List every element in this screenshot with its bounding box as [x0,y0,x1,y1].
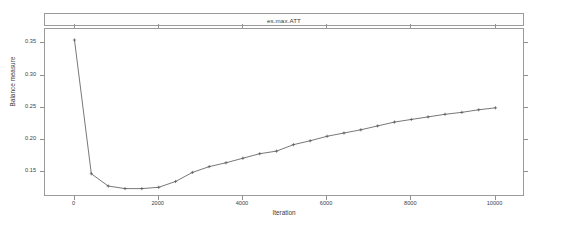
data-point-marker [157,186,160,189]
data-point-marker [326,135,329,138]
data-point-marker [73,38,76,41]
data-point-marker [191,171,194,174]
y-axis-tick [524,171,528,172]
data-point-marker [359,128,362,131]
data-point-marker [342,131,345,134]
data-point-marker [208,165,211,168]
x-axis-tick-label: 0 [54,200,94,206]
y-axis-title: Balance measure [9,37,16,127]
data-point-marker [174,180,177,183]
data-line [74,40,495,189]
y-axis-tick [40,42,44,43]
x-axis-tick-label: 6000 [306,200,346,206]
x-axis-title: Iteration [44,209,524,216]
y-axis-tick [524,75,528,76]
data-point-marker [241,157,244,160]
data-point-marker [275,150,278,153]
data-point-marker [309,139,312,142]
y-axis-tick-label: 0.35 [10,38,36,44]
x-axis-tick [74,24,75,28]
plot-panel [44,28,524,196]
data-point-marker [410,118,413,121]
x-axis-tick [242,24,243,28]
x-axis-tick [158,24,159,28]
y-axis-tick-label: 0.20 [10,135,36,141]
strip-title: es.max.ATT [45,14,523,27]
data-point-marker [224,161,227,164]
data-point-marker [460,111,463,114]
data-point-marker [123,187,126,190]
series-plot [45,29,525,197]
y-axis-tick-label: 0.15 [10,167,36,173]
data-point-marker [376,124,379,127]
x-axis-tick-label: 8000 [390,200,430,206]
x-axis-tick [410,24,411,28]
y-axis-tick [40,75,44,76]
data-point-marker [477,108,480,111]
data-point-marker [258,152,261,155]
x-axis-tick-label: 2000 [138,200,178,206]
y-axis-tick-label: 0.30 [10,71,36,77]
data-point-marker [292,143,295,146]
y-axis-tick [524,107,528,108]
data-point-marker [494,106,497,109]
y-axis-tick [524,139,528,140]
y-axis-tick [40,107,44,108]
y-axis-tick [524,42,528,43]
data-point-marker [393,120,396,123]
y-axis-tick [40,139,44,140]
x-axis-tick [326,24,327,28]
data-point-marker [427,115,430,118]
chart-figure: es.max.ATT Balance measure Iteration 0.1… [0,0,577,235]
data-point-marker [140,187,143,190]
x-axis-tick-label: 4000 [222,200,262,206]
y-axis-tick-label: 0.25 [10,103,36,109]
data-point-marker [443,113,446,116]
panel-strip-header: es.max.ATT [44,13,524,26]
y-axis-tick [40,171,44,172]
x-axis-tick-label: 10000 [475,200,515,206]
x-axis-tick [495,24,496,28]
